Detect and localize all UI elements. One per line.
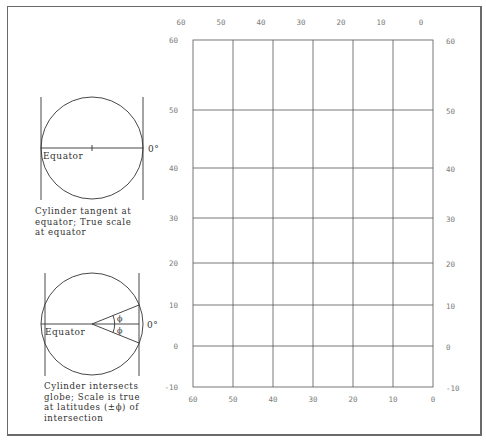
y-tick-label-right: 10: [446, 302, 456, 311]
y-tick-label-right: 50: [446, 107, 456, 116]
upper-secant-ray: [92, 305, 139, 324]
graticule-grid: [193, 40, 433, 387]
y-tick-label-left: -10: [164, 383, 178, 392]
x-tick-label-top: 0: [419, 18, 424, 27]
x-tick-label-bottom: 30: [308, 395, 318, 404]
equator-label: Equator: [45, 327, 86, 337]
x-tick-label-top: 20: [336, 18, 346, 27]
phi-lower-label: ϕ: [117, 326, 123, 335]
x-tick-label-bottom: 0: [431, 395, 436, 404]
y-tick-label-left: 30: [169, 214, 179, 223]
y-tick-label-right: -10: [446, 384, 460, 393]
x-tick-label-top: 40: [256, 18, 266, 27]
x-tick-label-bottom: 40: [268, 395, 278, 404]
equator-label: Equator: [43, 151, 84, 161]
secant-cylinder-diagram: [41, 273, 143, 376]
x-tick-label-bottom: 20: [348, 395, 358, 404]
lower-secant-ray: [92, 324, 139, 343]
y-tick-label-left: 20: [169, 259, 179, 268]
secant-caption: Cylinder intersects globe; Scale is true…: [44, 381, 140, 423]
y-tick-label-right: 20: [446, 260, 456, 269]
y-tick-label-left: 50: [169, 106, 179, 115]
x-tick-label-top: 50: [216, 18, 226, 27]
zero-degree-label: 0°: [147, 320, 158, 330]
x-tick-label-top: 60: [176, 18, 186, 27]
y-tick-label-left: 60: [169, 36, 179, 45]
y-tick-label-right: 40: [446, 165, 456, 174]
x-tick-label-top: 10: [376, 18, 386, 27]
tangent-cylinder-diagram: [41, 97, 143, 200]
y-tick-label-right: 0: [446, 343, 451, 352]
x-tick-label-bottom: 50: [228, 395, 238, 404]
phi-upper-label: ϕ: [117, 314, 123, 323]
y-tick-label-left: 40: [169, 164, 179, 173]
x-tick-label-bottom: 60: [188, 395, 198, 404]
y-tick-label-left: 0: [173, 342, 178, 351]
tangent-caption: Cylinder tangent at equator; True scale …: [35, 206, 131, 238]
zero-degree-label: 0°: [148, 144, 159, 154]
meridian-lines: [233, 40, 393, 387]
y-tick-label-left: 10: [169, 301, 179, 310]
y-tick-label-right: 30: [446, 215, 456, 224]
x-tick-label-bottom: 10: [388, 395, 398, 404]
y-tick-label-right: 60: [446, 37, 456, 46]
x-tick-label-top: 30: [296, 18, 306, 27]
